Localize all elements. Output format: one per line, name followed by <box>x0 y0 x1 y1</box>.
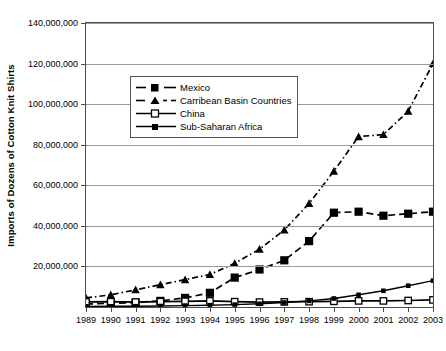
legend-label-china: China <box>177 108 205 119</box>
legend-label-subsaharan: Sub-Saharan Africa <box>177 121 262 132</box>
y-tick-label: 20,000,000 <box>4 261 78 271</box>
legend-label-caribbean: Carribean Basin Countries <box>177 95 291 106</box>
legend-label-mexico: Mexico <box>177 82 210 93</box>
data-point <box>282 300 287 305</box>
data-point <box>355 298 361 304</box>
line-chart: Imports of Dozens of Cotton Knit Shirts … <box>0 0 446 351</box>
data-point <box>156 281 164 289</box>
gridline <box>86 266 433 267</box>
data-point <box>430 297 433 303</box>
x-tick-label: 1996 <box>249 315 269 325</box>
gridline <box>86 64 433 65</box>
y-tick-label: 80,000,000 <box>4 140 78 150</box>
chart-legend: Mexico Carribean Basin Countries China <box>130 76 298 138</box>
x-tick-mark <box>408 308 409 312</box>
data-point <box>379 212 387 220</box>
data-point <box>356 293 361 298</box>
gridline <box>86 185 433 186</box>
data-point <box>404 210 412 218</box>
x-tick-mark <box>260 308 261 312</box>
y-tick-label: 40,000,000 <box>4 221 78 231</box>
gridline <box>86 23 433 24</box>
data-point <box>307 299 312 304</box>
x-tick-label: 1995 <box>225 315 245 325</box>
y-tick-label: 60,000,000 <box>4 180 78 190</box>
legend-item-subsaharan: Sub-Saharan Africa <box>135 120 291 133</box>
series-layer <box>86 23 433 307</box>
data-point <box>381 289 386 294</box>
data-point <box>332 296 337 301</box>
data-point <box>108 299 114 305</box>
data-point <box>330 209 338 217</box>
data-point <box>354 132 362 140</box>
x-tick-label: 1994 <box>200 315 220 325</box>
data-point <box>380 298 386 304</box>
data-point <box>355 208 363 216</box>
x-tick-mark <box>433 308 434 312</box>
x-tick-label: 1999 <box>324 315 344 325</box>
data-point <box>158 304 163 307</box>
gridline <box>86 145 433 146</box>
data-point <box>133 304 138 307</box>
legend-marker-caribbean <box>135 94 177 107</box>
data-point <box>257 302 262 307</box>
data-point <box>330 167 338 175</box>
data-point <box>429 208 433 216</box>
x-tick-mark <box>160 308 161 312</box>
gridline <box>86 226 433 227</box>
x-tick-mark <box>284 308 285 312</box>
data-point <box>404 107 412 115</box>
x-tick-label: 2003 <box>423 315 443 325</box>
data-point <box>232 302 237 307</box>
x-tick-mark <box>111 308 112 312</box>
x-tick-mark <box>185 308 186 312</box>
y-tick-label: 140,000,000 <box>4 18 78 28</box>
data-point <box>231 274 239 282</box>
y-axis-title-text: Imports of Dozens of Cotton Knit Shirts <box>5 64 16 246</box>
data-point <box>255 245 263 253</box>
legend-item-caribbean: Carribean Basin Countries <box>135 94 291 107</box>
y-tick-label: 120,000,000 <box>4 59 78 69</box>
x-tick-label: 1989 <box>76 315 96 325</box>
data-point <box>305 237 313 245</box>
x-tick-label: 1992 <box>150 315 170 325</box>
data-point <box>206 289 214 297</box>
x-tick-mark <box>210 308 211 312</box>
x-tick-label: 2000 <box>349 315 369 325</box>
x-tick-mark <box>86 308 87 312</box>
x-tick-mark <box>359 308 360 312</box>
x-tick-label: 1991 <box>126 315 146 325</box>
x-tick-label: 1993 <box>175 315 195 325</box>
data-point <box>131 286 139 294</box>
data-point <box>406 283 411 288</box>
legend-marker-china <box>135 107 177 120</box>
data-point <box>305 199 313 207</box>
x-tick-label: 2001 <box>373 315 393 325</box>
x-tick-mark <box>383 308 384 312</box>
x-tick-label: 1990 <box>101 315 121 325</box>
data-point <box>280 256 288 264</box>
x-tick-label: 1997 <box>274 315 294 325</box>
data-point <box>206 270 214 278</box>
y-tick-label: 100,000,000 <box>4 99 78 109</box>
legend-item-china: China <box>135 107 291 120</box>
legend-marker-mexico <box>135 81 177 94</box>
data-point <box>208 303 213 307</box>
x-tick-mark <box>136 308 137 312</box>
data-point <box>86 304 88 307</box>
x-tick-label: 1998 <box>299 315 319 325</box>
plot-area <box>85 22 434 308</box>
data-point <box>431 278 433 283</box>
x-tick-mark <box>334 308 335 312</box>
legend-item-mexico: Mexico <box>135 81 291 94</box>
data-point <box>405 297 411 303</box>
data-point <box>109 304 114 307</box>
x-tick-mark <box>235 308 236 312</box>
x-tick-label: 2002 <box>398 315 418 325</box>
x-tick-mark <box>309 308 310 312</box>
legend-marker-subsaharan <box>135 120 177 133</box>
data-point <box>183 303 188 307</box>
